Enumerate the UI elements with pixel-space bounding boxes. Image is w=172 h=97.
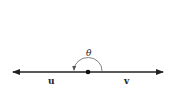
origin-point (86, 70, 91, 75)
angle-diagram: θ u v (0, 0, 172, 97)
u-label: u (48, 76, 55, 86)
angle-arc (74, 57, 102, 71)
theta-label: θ (86, 48, 92, 58)
v-label: v (123, 76, 130, 86)
